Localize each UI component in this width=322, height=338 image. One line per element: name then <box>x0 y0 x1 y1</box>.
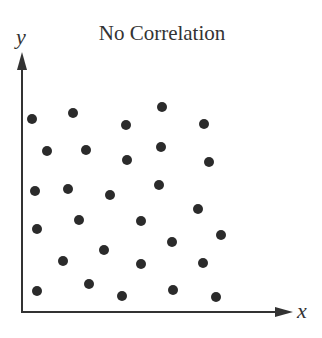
data-point <box>156 142 166 152</box>
data-point <box>204 157 214 167</box>
data-point <box>136 259 146 269</box>
data-point <box>99 245 109 255</box>
data-point <box>105 190 115 200</box>
y-axis <box>17 52 27 313</box>
data-point <box>68 108 78 118</box>
data-point <box>136 216 146 226</box>
data-points <box>27 102 226 302</box>
data-point <box>154 180 164 190</box>
y-axis-arrow-icon <box>17 52 27 70</box>
data-point <box>167 237 177 247</box>
data-point <box>58 256 68 266</box>
chart-title: No Correlation <box>99 21 226 45</box>
data-point <box>63 184 73 194</box>
data-point <box>122 155 132 165</box>
data-point <box>157 102 167 112</box>
data-point <box>117 291 127 301</box>
data-point <box>30 186 40 196</box>
data-point <box>74 215 84 225</box>
data-point <box>193 204 203 214</box>
x-axis <box>21 307 293 317</box>
scatter-chart: No Correlation y x <box>0 0 322 338</box>
data-point <box>121 120 131 130</box>
data-point <box>216 230 226 240</box>
x-axis-label: x <box>296 298 307 323</box>
data-point <box>32 224 42 234</box>
data-point <box>81 145 91 155</box>
x-axis-arrow-icon <box>275 307 293 317</box>
data-point <box>32 286 42 296</box>
data-point <box>199 119 209 129</box>
data-point <box>168 285 178 295</box>
data-point <box>27 114 37 124</box>
data-point <box>42 146 52 156</box>
data-point <box>198 258 208 268</box>
data-point <box>211 292 221 302</box>
data-point <box>84 279 94 289</box>
y-axis-label: y <box>14 24 26 49</box>
